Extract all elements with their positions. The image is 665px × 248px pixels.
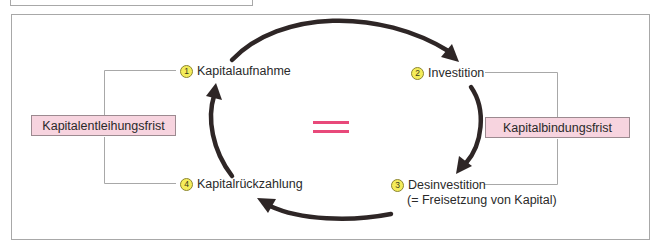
step-number-badge-4: 4 [180, 178, 193, 191]
step-kapitalaufnahme: 1 Kapitalaufnahme [180, 64, 291, 78]
equals-bar-bottom [313, 130, 349, 133]
kapitalentleihungsfrist-label: Kapitalentleihungsfrist [42, 119, 164, 133]
step-label-4: Kapitalrückzahlung [197, 177, 303, 191]
kapitalentleihungsfrist-box: Kapitalentleihungsfrist [31, 115, 176, 136]
step-label-2: Investition [428, 66, 484, 80]
step-desinvestition-sublabel: (= Freisetzung von Kapital) [407, 193, 557, 207]
arrow-2-to-3 [456, 87, 481, 174]
step-label-3: Desinvestition [408, 178, 486, 192]
arrow-4-to-1 [206, 83, 232, 176]
step-number-badge-3: 3 [391, 179, 404, 192]
kapitalbindungsfrist-box: Kapitalbindungsfrist [485, 117, 630, 138]
step-desinvestition: 3 Desinvestition [391, 178, 486, 192]
arrow-3-to-4 [257, 198, 391, 219]
step-kapitalrueckzahlung: 4 Kapitalrückzahlung [180, 177, 303, 191]
step-number-badge-2: 2 [411, 67, 424, 80]
step-investition: 2 Investition [411, 66, 484, 80]
arrow-1-to-2 [232, 21, 459, 62]
step-label-1: Kapitalaufnahme [197, 64, 291, 78]
step-number-badge-1: 1 [180, 65, 193, 78]
kapitalbindungsfrist-label: Kapitalbindungsfrist [503, 121, 612, 135]
equals-bar-top [313, 121, 349, 124]
